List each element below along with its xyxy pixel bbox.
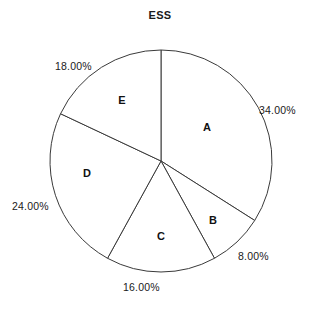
slice-letter-e: E xyxy=(118,94,125,106)
slice-letter-b: B xyxy=(209,214,217,226)
percent-label-c: 16.00% xyxy=(123,281,160,293)
percent-label-a: 34.00% xyxy=(259,104,296,116)
percent-label-b: 8.00% xyxy=(238,250,269,262)
percent-label-d: 24.00% xyxy=(12,200,49,212)
percent-label-e: 18.00% xyxy=(55,60,92,72)
pie-chart-figure: ESS A B C D E 34.00% 8.00% 16.00% 24.00%… xyxy=(0,0,320,310)
slice-letter-a: A xyxy=(203,121,211,133)
pie-chart-svg: A B C D E xyxy=(0,0,320,310)
slice-letter-c: C xyxy=(157,230,165,242)
slice-letter-d: D xyxy=(83,167,91,179)
